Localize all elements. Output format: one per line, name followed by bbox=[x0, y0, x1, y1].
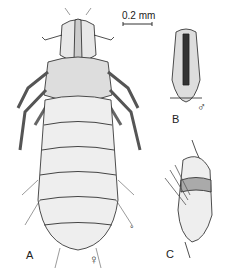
louse-illustration bbox=[18, 8, 140, 268]
scale-bar-label: 0.2 mm bbox=[122, 11, 155, 21]
panel-label-c: C bbox=[166, 249, 174, 260]
small-mark: ° bbox=[130, 225, 134, 234]
female-symbol: ♀ bbox=[89, 253, 99, 266]
figure-drawing bbox=[0, 0, 233, 275]
genitalia-illustration bbox=[170, 29, 202, 102]
panel-label-a: A bbox=[26, 250, 33, 261]
panel-label-b: B bbox=[172, 114, 179, 125]
egg-illustration bbox=[165, 140, 212, 258]
male-symbol: ♂ bbox=[197, 101, 206, 113]
